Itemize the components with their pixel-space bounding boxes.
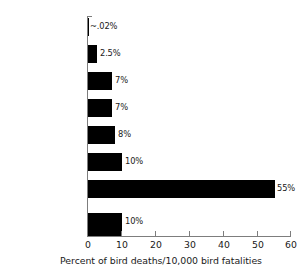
x-tick-label: 0 (73, 239, 103, 250)
bar-value-label: 8% (118, 130, 131, 139)
bar (88, 126, 115, 144)
x-axis-title: Percent of bird deaths/10,000 bird fatal… (0, 255, 298, 267)
bar-value-label: 10% (125, 217, 143, 226)
bar-value-label: ~.02% (90, 22, 117, 31)
bar-value-label: 2.5% (100, 49, 120, 58)
bar (88, 153, 122, 171)
x-tick-label: 20 (141, 239, 171, 250)
bar (88, 213, 122, 236)
x-tick-mark (257, 231, 258, 237)
x-tick-mark (189, 231, 190, 237)
bar-value-label: 55% (277, 184, 295, 193)
bar-value-label: 7% (115, 103, 128, 112)
x-tick-label: 10 (107, 239, 137, 250)
bar (88, 72, 112, 90)
x-tick-label: 60 (276, 239, 298, 250)
bar (88, 180, 275, 198)
bird-fatalities-bar-chart: wind turbines ~.02% communication towers… (0, 0, 298, 277)
x-tick-mark (290, 231, 291, 237)
bar (88, 99, 112, 117)
bar-value-label: 10% (125, 157, 143, 166)
bar (88, 45, 97, 63)
x-tick-label: 30 (175, 239, 205, 250)
x-tick-mark (121, 231, 122, 237)
x-tick-label: 40 (209, 239, 239, 250)
bar-value-label: 7% (115, 76, 128, 85)
x-tick-label: 50 (243, 239, 273, 250)
x-tick-mark (87, 231, 88, 237)
x-tick-mark (223, 231, 224, 237)
plot-area: wind turbines ~.02% communication towers… (0, 0, 298, 277)
x-tick-mark (155, 231, 156, 237)
